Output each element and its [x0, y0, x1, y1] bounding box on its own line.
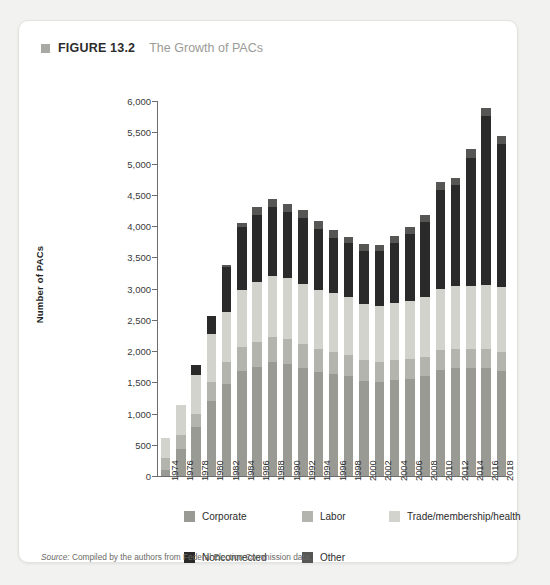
bar-segment-nonconnected [451, 185, 460, 286]
bar-segment-trade [222, 312, 231, 363]
legend-item-corporate[interactable]: Corporate [184, 511, 246, 522]
bar-segment-labor [481, 349, 490, 368]
bar-segment-trade [466, 286, 475, 349]
x-axis-tick-label: 1980 [215, 460, 225, 481]
bar-segment-nonconnected [222, 267, 231, 312]
bar-segment-nonconnected [436, 190, 445, 289]
y-axis-tick-mark [152, 351, 157, 352]
x-axis-tick-label: 2016 [490, 460, 500, 481]
x-axis-tick-label: 1978 [200, 460, 210, 481]
y-axis-tick-label: 500 [115, 439, 151, 450]
x-axis-tick-label: 1988 [276, 460, 286, 481]
bar-segment-trade [481, 285, 490, 348]
bar-segment-nonconnected [283, 212, 292, 278]
bar-segment-nonconnected [191, 365, 200, 375]
bar-segment-nonconnected [375, 251, 384, 306]
bar-segment-nonconnected [420, 222, 429, 297]
y-axis-tick-mark [152, 382, 157, 383]
y-axis-tick-mark [152, 257, 157, 258]
bar-2008 [420, 215, 429, 476]
y-axis-tick-label: 0 [115, 471, 151, 482]
y-axis-tick-label: 2,500 [115, 314, 151, 325]
bar-1994 [314, 221, 323, 476]
legend-label: Corporate [202, 511, 246, 522]
bar-segment-other [268, 199, 277, 207]
y-axis-tick-mark [152, 101, 157, 102]
bar-segment-trade [191, 375, 200, 413]
bar-segment-other [314, 221, 323, 229]
bar-1990 [283, 204, 292, 477]
bar-segment-labor [375, 362, 384, 382]
bar-segment-labor [268, 337, 277, 362]
bar-segment-other [298, 210, 307, 218]
x-axis-tick-label: 1984 [246, 460, 256, 481]
bar-2002 [375, 245, 384, 476]
legend-swatch-trade [389, 511, 400, 522]
x-axis-tick-label: 1992 [307, 460, 317, 481]
bar-segment-other [497, 136, 506, 144]
bar-segment-other [252, 207, 261, 215]
bar-segment-trade [359, 304, 368, 360]
legend-row: CorporateLaborTrade/membership/health [184, 511, 514, 527]
y-axis-tick-mark [152, 164, 157, 165]
y-axis-tick-label: 1,000 [115, 408, 151, 419]
figure-header: FIGURE 13.2 The Growth of PACs [41, 41, 263, 55]
bar-segment-labor [314, 349, 323, 372]
bar-segment-other [466, 149, 475, 157]
x-axis-tick-label: 2012 [460, 460, 470, 481]
bar-segment-labor [176, 435, 185, 449]
x-axis-tick-label: 2002 [383, 460, 393, 481]
bar-segment-labor [497, 352, 506, 371]
bar-segment-nonconnected [405, 234, 414, 302]
legend-label: Trade/membership/health [407, 511, 521, 522]
bar-segment-labor [207, 382, 216, 401]
bar-2016 [481, 108, 490, 476]
bar-segment-labor [161, 458, 170, 471]
y-axis-tick-label: 4,000 [115, 221, 151, 232]
bar-segment-labor [329, 352, 338, 374]
source-text: Compiled by the authors from Federal Ele… [70, 552, 312, 562]
x-axis-tick-label: 1986 [261, 460, 271, 481]
legend-item-trade[interactable]: Trade/membership/health [389, 511, 521, 522]
bar-segment-other [436, 182, 445, 190]
bar-segment-nonconnected [497, 144, 506, 288]
bar-segment-trade [237, 290, 246, 347]
y-axis-tick-mark [152, 289, 157, 290]
bar-segment-other [451, 178, 460, 186]
source-note: Source: Compiled by the authors from Fed… [41, 552, 312, 562]
bar-1980 [207, 316, 216, 476]
bar-segment-other [405, 227, 414, 234]
bar-segment-nonconnected [390, 243, 399, 303]
bar-segment-labor [283, 339, 292, 363]
bar-segment-trade [436, 289, 445, 351]
bar-2014 [466, 149, 475, 476]
bar-segment-other [420, 215, 429, 222]
bar-segment-nonconnected [207, 316, 216, 334]
y-axis-tick-label: 3,000 [115, 283, 151, 294]
bar-segment-nonconnected [329, 238, 338, 293]
bar-segment-nonconnected [314, 229, 323, 290]
y-axis-title: Number of PACs [34, 205, 45, 365]
figure-title: The Growth of PACs [149, 41, 263, 55]
bar-segment-labor [359, 360, 368, 381]
y-axis-tick-mark [152, 445, 157, 446]
bar-segment-trade [161, 438, 170, 458]
y-axis-tick-mark [152, 476, 157, 477]
bar-segment-trade [497, 287, 506, 351]
bar-segment-labor [451, 349, 460, 368]
bar-segment-labor [405, 359, 414, 378]
bar-series-group [158, 101, 509, 476]
x-axis-tick-label: 1994 [322, 460, 332, 481]
y-axis-tick-label: 4,500 [115, 189, 151, 200]
legend-item-labor[interactable]: Labor [302, 511, 346, 522]
square-marker-icon [41, 44, 50, 53]
bar-2010 [436, 182, 445, 476]
bar-segment-labor [191, 414, 200, 428]
bar-segment-labor [222, 362, 231, 384]
bar-segment-trade [252, 282, 261, 342]
bar-1992 [298, 210, 307, 476]
y-axis-tick-label: 1,500 [115, 377, 151, 388]
x-axis-tick-label: 1998 [353, 460, 363, 481]
y-axis-tick-mark [152, 320, 157, 321]
bar-segment-trade [207, 334, 216, 383]
